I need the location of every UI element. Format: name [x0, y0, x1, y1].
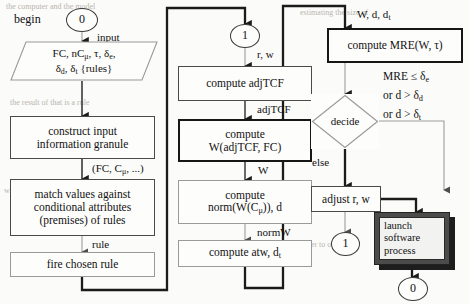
rw-edge-label: r, w: [257, 48, 274, 60]
compute-w-line-1: compute: [225, 128, 265, 141]
w-edge-label: W: [258, 164, 268, 176]
match-values-line-3: (premises) of rules: [39, 214, 125, 227]
compute-norm-box[interactable]: compute norm(W(Cμ)), d: [178, 180, 312, 224]
input-parallelogram[interactable]: FC, nCμ, τ, δe, δd, δt {rules}: [10, 41, 158, 81]
compute-adjtcf-box[interactable]: compute adjTCF: [178, 66, 312, 101]
input-line-1: FC, nCμ, τ, δe,: [53, 47, 116, 61]
compute-atw-box[interactable]: compute atw, dt: [178, 240, 312, 267]
condition-line-1: MRE ≤ δe: [383, 70, 429, 84]
start-terminal-0[interactable]: 0: [66, 8, 98, 32]
compute-norm-line-1: compute: [225, 189, 265, 202]
match-values-line-1: match values against: [35, 188, 131, 201]
compute-atw-label: compute atw, dt: [209, 246, 281, 260]
end-terminal-0[interactable]: 0: [398, 277, 428, 301]
compute-mre-label: compute MRE(W, τ): [347, 39, 442, 52]
launch-line-3: process: [384, 245, 416, 258]
adjust-rw-box[interactable]: adjust r, w: [311, 186, 381, 212]
compute-w-box[interactable]: compute W(adjTCF, FC): [178, 119, 312, 162]
end-terminal-label: 0: [410, 282, 416, 295]
flowchart-canvas: the computer and the model the result of…: [0, 0, 469, 304]
construct-granule-line-2: information granule: [37, 138, 129, 151]
connector-1-top-label: 1: [242, 29, 248, 42]
fire-chosen-rule-label: fire chosen rule: [47, 258, 119, 271]
begin-label: begin: [14, 12, 41, 27]
connector-1-right[interactable]: 1: [331, 232, 360, 256]
wddt-edge-label: W, d, dt: [357, 8, 391, 22]
condition-line-2: or d > δd: [383, 89, 423, 103]
granule-edge-label: (FC, Cμ, ...): [92, 162, 144, 176]
compute-adjtcf-label: compute adjTCF: [206, 77, 284, 90]
fire-chosen-rule-box[interactable]: fire chosen rule: [10, 252, 155, 277]
launch-box-inner: launch software process: [379, 217, 445, 260]
launch-software-process-box[interactable]: launch software process: [374, 212, 450, 265]
condition-line-3: or d > δt: [383, 108, 421, 122]
start-terminal-label: 0: [79, 13, 85, 26]
construct-granule-line-1: construct input: [48, 125, 117, 138]
decide-diamond[interactable]: decide: [311, 94, 379, 149]
connector-1-right-label: 1: [343, 237, 349, 250]
else-edge-label: else: [312, 156, 329, 168]
compute-mre-box[interactable]: compute MRE(W, τ): [327, 28, 463, 63]
match-values-line-2: conditional attributes: [34, 201, 131, 214]
normw-edge-label: normW: [257, 226, 291, 238]
input-line-2: δd, δt {rules}: [56, 62, 113, 76]
launch-line-2: software: [384, 232, 420, 245]
connector-1-top[interactable]: 1: [230, 24, 260, 48]
adjust-rw-label: adjust r, w: [322, 193, 370, 206]
match-values-box[interactable]: match values against conditional attribu…: [10, 179, 155, 236]
compute-w-line-2: W(adjTCF, FC): [209, 141, 282, 154]
construct-granule-box[interactable]: construct input information granule: [10, 116, 155, 159]
compute-norm-line-2: norm(W(Cμ)), d: [208, 201, 282, 215]
adjtcf-edge-label: adjTCF: [257, 103, 291, 115]
rule-edge-label: rule: [92, 238, 109, 250]
decide-label: decide: [331, 115, 360, 127]
launch-line-1: launch: [384, 220, 412, 233]
